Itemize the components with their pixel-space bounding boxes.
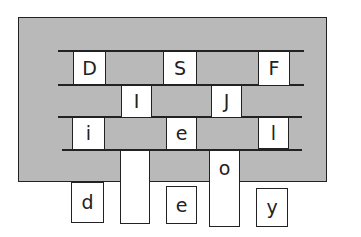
letter-tile-o: o xyxy=(209,150,240,227)
letter-tile-i: i xyxy=(72,117,105,150)
letter-tile-S: S xyxy=(163,51,197,85)
letter-tile-D: D xyxy=(73,51,106,85)
letter-tile-I: I xyxy=(121,85,152,118)
gray-board xyxy=(18,17,327,182)
letter-I: I xyxy=(134,92,140,111)
letter-o: o xyxy=(219,159,231,178)
letter-tile-d: d xyxy=(71,182,104,223)
letter-tile-l: l xyxy=(258,117,289,149)
letter-tile-F: F xyxy=(258,51,290,86)
letter-tile-e-bottom: e xyxy=(166,186,197,224)
letter-S: S xyxy=(174,59,186,78)
letter-F: F xyxy=(269,59,280,78)
letter-l: l xyxy=(271,124,276,143)
letter-d: d xyxy=(81,193,93,212)
letter-e-bottom: e xyxy=(176,196,188,215)
blank-strip xyxy=(120,150,150,224)
letter-i: i xyxy=(86,124,91,143)
letter-tile-e-row: e xyxy=(166,117,197,150)
letter-y: y xyxy=(266,198,277,217)
letter-tile-J: J xyxy=(211,85,242,118)
letter-J: J xyxy=(224,92,230,111)
letter-D: D xyxy=(82,59,97,78)
letter-tile-y: y xyxy=(256,188,288,227)
letter-e: e xyxy=(176,124,188,143)
